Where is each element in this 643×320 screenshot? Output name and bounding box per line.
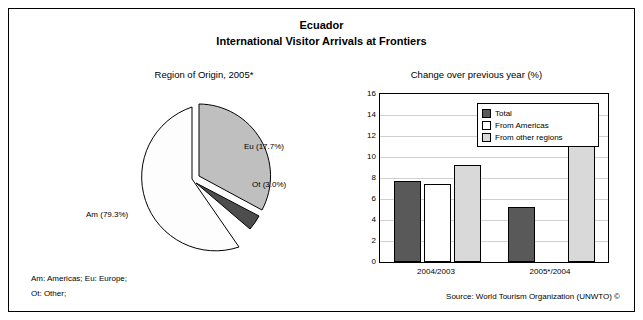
bar-total xyxy=(394,181,421,262)
legend-swatch-total xyxy=(482,109,491,118)
pie-label-am: Am (79.3%) xyxy=(86,210,128,219)
legend-label: From Americas xyxy=(495,121,549,130)
bar-total xyxy=(508,207,535,262)
source-note: Source: World Tourism Organization (UNWT… xyxy=(446,292,620,301)
y-axis-tick: 2 xyxy=(340,236,376,245)
bar-americas xyxy=(424,184,451,262)
page-title: Ecuador xyxy=(9,19,634,31)
legend-item: From Americas xyxy=(482,119,594,131)
legend-item: Total xyxy=(482,107,594,119)
y-axis-tick: 8 xyxy=(340,173,376,182)
x-axis-label: 2004/2003 xyxy=(379,267,493,276)
footnote-line-2: Ot: Other; xyxy=(31,289,66,298)
y-axis-tick: 10 xyxy=(340,152,376,161)
legend-swatch-americas xyxy=(482,121,491,130)
bar-chart-heading: Change over previous year (%) xyxy=(339,69,614,80)
pie-chart: Eu (17.7%) Ot (3.0%) Am (79.3%) xyxy=(84,94,334,264)
legend-label: Total xyxy=(495,109,512,118)
legend-item: From other regions xyxy=(482,131,594,143)
x-axis-label: 2005*/2004 xyxy=(493,267,607,276)
legend-swatch-other-regions xyxy=(482,133,491,142)
y-axis-tick: 4 xyxy=(340,215,376,224)
page-subtitle: International Visitor Arrivals at Fronti… xyxy=(9,35,634,47)
figure-frame: Ecuador International Visitor Arrivals a… xyxy=(8,8,635,312)
y-axis-tick: 6 xyxy=(340,194,376,203)
bar-other-regions xyxy=(454,165,481,262)
pie-label-eu: Eu (17.7%) xyxy=(244,142,284,151)
bar-chart-legend: TotalFrom AmericasFrom other regions xyxy=(477,103,599,147)
legend-label: From other regions xyxy=(495,133,563,142)
pie-label-ot: Ot (3.0%) xyxy=(252,180,286,189)
y-axis-tick: 14 xyxy=(340,110,376,119)
y-axis-tick: 0 xyxy=(340,257,376,266)
y-axis-tick: 16 xyxy=(340,89,376,98)
bar-chart: 0246810121416 2004/20032005*/2004 TotalF… xyxy=(339,87,624,277)
y-axis-tick: 12 xyxy=(340,131,376,140)
footnote-line-1: Am: Americas; Eu: Europe; xyxy=(31,274,127,283)
pie-chart-svg xyxy=(84,94,334,264)
pie-chart-heading: Region of Origin, 2005* xyxy=(69,69,339,80)
